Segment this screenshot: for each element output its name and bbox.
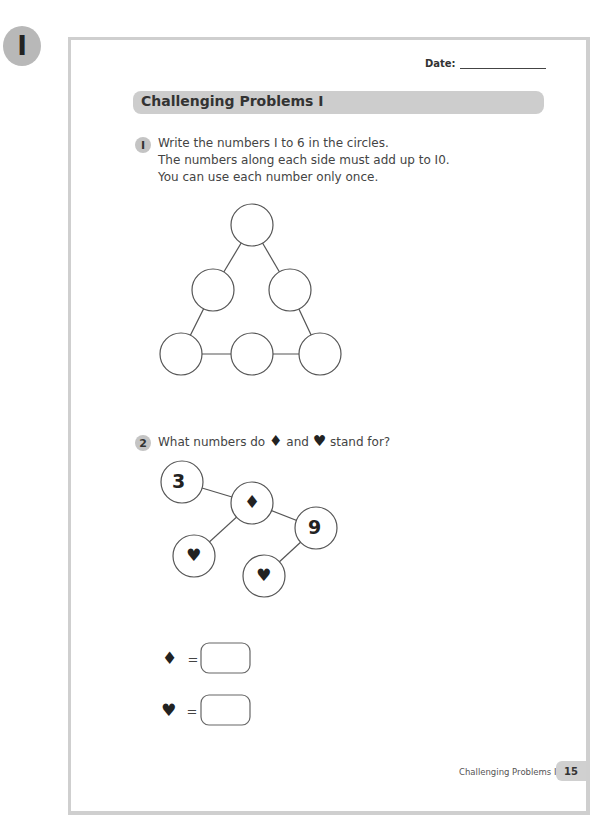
answer-circle[interactable]: [160, 333, 202, 375]
answer-circle[interactable]: [231, 204, 273, 246]
node-value-3: 3: [172, 470, 185, 492]
diagrams: [0, 0, 613, 825]
node-value-9: 9: [308, 516, 321, 538]
diamond-answer-box[interactable]: [201, 643, 250, 673]
heart-icon: ♥: [161, 700, 176, 720]
page-number: 15: [556, 761, 586, 781]
answer-circle[interactable]: [192, 269, 234, 311]
equals-sign: =: [186, 704, 197, 719]
diamond-icon: ♦: [244, 491, 260, 512]
question-2-number: 2: [135, 435, 151, 451]
heart-icon: ♥: [313, 432, 326, 450]
triangle-puzzle: [160, 204, 341, 375]
heart-equation: ♥ =: [161, 700, 197, 720]
answer-circle[interactable]: [269, 269, 311, 311]
question-2-text: What numbers do ♦ and ♥ stand for?: [158, 433, 390, 451]
diamond-icon: ♦: [162, 648, 177, 668]
answer-circle[interactable]: [299, 333, 341, 375]
equals-sign: =: [187, 652, 198, 667]
answer-boxes: [201, 643, 250, 725]
question-2-text-end: stand for?: [330, 435, 390, 449]
diamond-equation: ♦ =: [162, 648, 198, 668]
footer-label: Challenging Problems I: [459, 767, 557, 777]
question-2-text-start: What numbers do: [158, 435, 265, 449]
diamond-icon: ♦: [269, 432, 282, 450]
heart-icon: ♥: [186, 545, 201, 565]
answer-circle[interactable]: [231, 333, 273, 375]
heart-icon: ♥: [256, 565, 271, 585]
question-2-text-and: and: [286, 435, 309, 449]
heart-answer-box[interactable]: [201, 695, 250, 725]
